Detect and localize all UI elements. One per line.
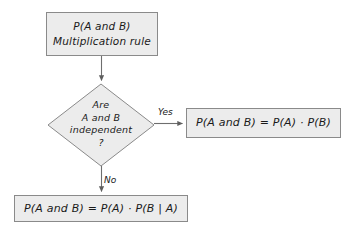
edge-label-no: No — [104, 175, 116, 185]
node-decision-line-3: independent — [70, 124, 132, 137]
node-decision-line-4: ? — [98, 137, 103, 150]
node-decision-line-1: Are — [93, 99, 110, 112]
node-decision-line-2: A and B — [82, 112, 120, 125]
edge-label-yes: Yes — [158, 107, 173, 117]
node-decision-independent[interactable]: Are A and B independent ? — [48, 84, 154, 166]
decision-text-group: Are A and B independent ? — [48, 84, 154, 166]
flowchart-canvas: P(A and B) Multiplication rule Are A and… — [0, 0, 352, 234]
